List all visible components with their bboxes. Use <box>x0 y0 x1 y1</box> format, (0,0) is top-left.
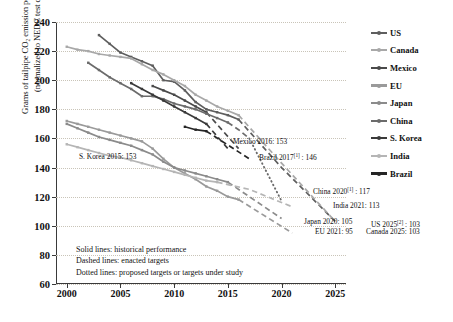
data-point-mexico <box>162 89 164 91</box>
legend-item-label: Canada <box>390 45 419 55</box>
data-point-japan <box>194 172 196 174</box>
legend-item-us[interactable]: US <box>371 24 451 42</box>
data-point-skorea <box>151 94 153 96</box>
data-point-eu <box>119 134 121 136</box>
x-tick-label: 2005 <box>110 288 130 299</box>
data-point-japan <box>87 131 89 133</box>
data-point-skorea <box>141 88 143 90</box>
data-point-eu <box>162 158 164 160</box>
data-point-canada <box>205 99 207 101</box>
data-point-canada <box>109 54 111 56</box>
data-point-eu <box>227 195 229 197</box>
data-point-japan <box>119 142 121 144</box>
annotation-eu: EU 2021: 95 <box>315 228 353 236</box>
data-point-japan <box>98 136 100 138</box>
data-point-us <box>194 101 196 103</box>
y-tick-label: 180 <box>34 104 50 115</box>
data-point-mexico <box>184 99 186 101</box>
legend-item-eu[interactable]: EU <box>371 77 451 95</box>
data-point-us <box>216 111 218 113</box>
y-tick-mark <box>52 284 56 285</box>
data-point-us <box>184 89 186 91</box>
legend-line-icon <box>371 169 387 178</box>
style-key-line-0: Solid lines: historical performance <box>76 244 243 255</box>
annotation-mexico: Mexico 2016: 153 <box>233 138 287 146</box>
y-tick-label: 120 <box>34 191 50 202</box>
data-point-us <box>205 108 207 110</box>
data-point-skorea <box>205 123 207 125</box>
y-tick-label: 140 <box>34 162 50 173</box>
data-point-eu <box>76 123 78 125</box>
data-point-us <box>98 34 100 36</box>
legend-item-brazil[interactable]: Brazil <box>371 165 451 183</box>
data-point-eu <box>151 147 153 149</box>
data-point-india <box>205 179 207 181</box>
annotation-skorea: S. Korea 2015: 153 <box>79 153 136 161</box>
data-point-japan <box>173 166 175 168</box>
data-point-canada <box>151 69 153 71</box>
data-point-canada <box>237 114 239 116</box>
legend-item-japan[interactable]: Japan <box>371 94 451 112</box>
data-point-mexico <box>194 105 196 107</box>
data-point-japan <box>184 169 186 171</box>
chart-legend: USCanadaMexicoEUJapanChinaS. KoreaIndiaB… <box>371 24 451 182</box>
data-point-canada <box>66 46 68 48</box>
series-target-japan <box>228 182 282 218</box>
data-point-japan <box>216 178 218 180</box>
data-point-eu <box>66 120 68 122</box>
data-point-brazil <box>205 130 207 132</box>
legend-item-canada[interactable]: Canada <box>371 42 451 60</box>
legend-line-icon <box>371 81 387 90</box>
data-point-japan <box>151 153 153 155</box>
legend-line-icon <box>371 116 387 125</box>
data-point-japan <box>141 149 143 151</box>
data-point-china <box>194 108 196 110</box>
annotation-japan: Japan 2020: 105 <box>304 218 352 226</box>
data-point-china <box>173 102 175 104</box>
data-point-canada <box>184 85 186 87</box>
data-point-japan <box>76 127 78 129</box>
data-point-india <box>76 146 78 148</box>
data-point-india <box>194 177 196 179</box>
data-point-china <box>87 62 89 64</box>
legend-item-label: Japan <box>390 98 412 108</box>
legend-item-mexico[interactable]: Mexico <box>371 59 451 77</box>
data-point-japan <box>162 161 164 163</box>
legend-line-icon <box>371 28 387 37</box>
y-axis-title-line1: Grams of tailpipe CO₂ emission per kilom… <box>20 0 30 114</box>
style-key-line-2: Dotted lines: proposed targets or target… <box>76 267 243 278</box>
legend-item-label: Brazil <box>390 169 412 179</box>
annotation-china: China 2020[1] : 117 <box>313 185 370 196</box>
x-tick-label: 2025 <box>325 288 345 299</box>
data-point-skorea <box>194 117 196 119</box>
legend-item-label: China <box>390 116 412 126</box>
annotation-brazil: Brazil 2017[1] : 146 <box>259 151 317 162</box>
data-point-india <box>162 168 164 170</box>
legend-item-skorea[interactable]: S. Korea <box>371 130 451 148</box>
data-point-canada <box>76 48 78 50</box>
gridline <box>56 284 346 285</box>
legend-item-china[interactable]: China <box>371 112 451 130</box>
legend-item-label: S. Korea <box>390 133 422 143</box>
data-point-eu <box>237 198 239 200</box>
annotation-canada: Canada 2025: 103 <box>366 228 420 236</box>
data-point-eu <box>141 140 143 142</box>
legend-item-india[interactable]: India <box>371 147 451 165</box>
data-point-india <box>66 143 68 145</box>
series-target-india <box>217 182 292 207</box>
data-point-eu <box>130 137 132 139</box>
data-point-japan <box>109 139 111 141</box>
line-style-key: Solid lines: historical performanceDashe… <box>76 244 243 278</box>
data-point-us <box>141 60 143 62</box>
data-point-china <box>119 82 121 84</box>
data-point-skorea <box>130 82 132 84</box>
style-key-line-1: Dashed lines: enacted targets <box>76 255 243 266</box>
data-point-china <box>216 117 218 119</box>
data-point-eu <box>205 185 207 187</box>
x-tick-label: 2020 <box>272 288 292 299</box>
data-point-india <box>184 174 186 176</box>
y-tick-label: 240 <box>34 17 50 28</box>
series-target-skorea <box>206 124 227 149</box>
data-point-skorea <box>162 99 164 101</box>
data-point-china <box>130 88 132 90</box>
